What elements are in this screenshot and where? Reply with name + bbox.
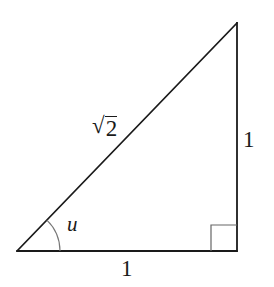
hypotenuse-label: √2 [92,114,117,140]
right-angle-marker [211,225,237,251]
angle-arc [47,220,60,251]
triangle-diagram [0,0,274,287]
vertical-leg-label: 1 [243,128,255,151]
sqrt-expression: √2 [92,114,117,140]
angle-label: u [67,214,78,235]
radicand: 2 [105,116,118,140]
hypotenuse-line [17,23,237,251]
horizontal-leg-label: 1 [121,257,133,280]
radical-symbol: √ [92,114,105,137]
